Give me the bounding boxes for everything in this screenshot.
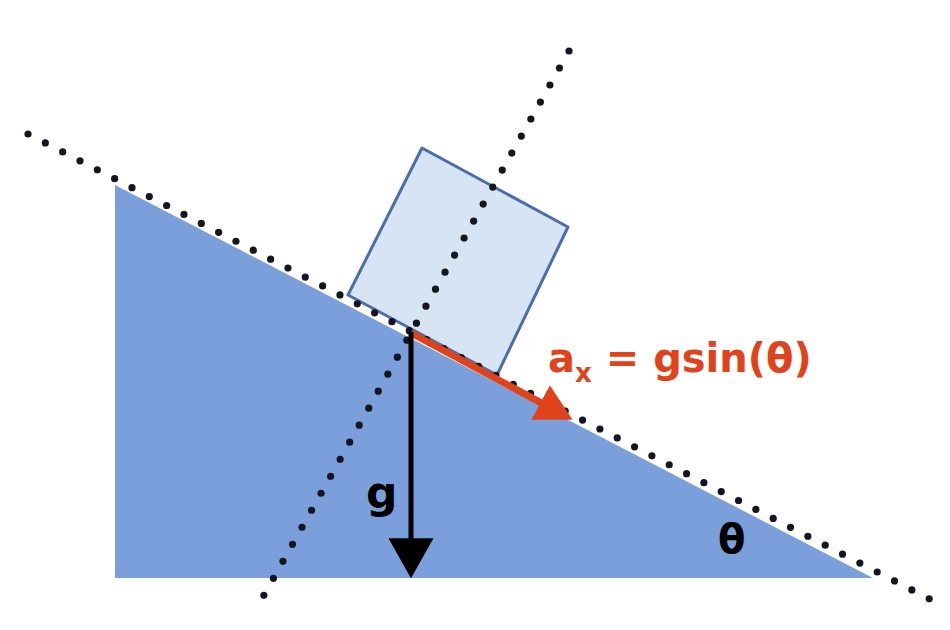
dotted-line-dot <box>470 218 477 225</box>
dotted-line-dot <box>284 264 291 271</box>
dotted-line-dot <box>508 149 515 156</box>
dotted-line-dot <box>394 354 401 361</box>
dotted-line-dot <box>319 282 326 289</box>
dotted-line-dot <box>700 479 707 486</box>
dotted-line-dot <box>683 470 690 477</box>
acceleration-label-expression: = gsin(θ) <box>592 335 812 381</box>
dotted-line-dot <box>518 132 525 139</box>
dotted-line-dot <box>180 211 187 218</box>
dotted-line-dot <box>289 541 296 548</box>
dotted-line-dot <box>489 183 496 190</box>
dotted-line-dot <box>298 524 305 531</box>
dotted-line-dot <box>926 595 933 602</box>
dotted-line-dot <box>666 461 673 468</box>
dotted-line-dot <box>336 291 343 298</box>
physics-diagram-canvas: ax = gsin(θ) g θ <box>0 0 950 630</box>
dotted-line-dot <box>874 568 881 575</box>
dotted-line-dot <box>215 229 222 236</box>
dotted-line-dot <box>631 443 638 450</box>
dotted-line-dot <box>441 269 448 276</box>
acceleration-label-subscript: x <box>575 358 592 388</box>
dotted-line-dot <box>327 473 334 480</box>
dotted-line-dot <box>422 303 429 310</box>
dotted-line-dot <box>317 490 324 497</box>
dotted-line-dot <box>260 592 267 599</box>
dotted-line-dot <box>527 115 534 122</box>
dotted-line-dot <box>94 166 101 173</box>
dotted-line-dot <box>250 247 257 254</box>
dotted-line-dot <box>163 202 170 209</box>
dotted-line-dot <box>648 452 655 459</box>
dotted-line-dot <box>24 130 31 137</box>
dotted-line-dot <box>232 238 239 245</box>
dotted-line-dot <box>579 416 586 423</box>
dotted-line-dot <box>198 220 205 227</box>
dotted-line-dot <box>128 184 135 191</box>
dotted-line-dot <box>432 286 439 293</box>
dotted-line-dot <box>337 456 344 463</box>
acceleration-label-base: a <box>548 335 575 381</box>
dotted-line-dot <box>908 586 915 593</box>
dotted-line-dot <box>267 256 274 263</box>
dotted-line-dot <box>384 371 391 378</box>
dotted-line-dot <box>804 533 811 540</box>
dotted-line-dot <box>596 425 603 432</box>
dotted-line-dot <box>279 558 286 565</box>
dotted-line-dot <box>556 64 563 71</box>
dotted-line-dot <box>302 273 309 280</box>
dotted-line-dot <box>76 157 83 164</box>
dotted-line-dot <box>365 405 372 412</box>
dotted-line-dot <box>822 542 829 549</box>
dotted-line-dot <box>346 439 353 446</box>
acceleration-formula-label: ax = gsin(θ) <box>548 335 812 388</box>
dotted-line-dot <box>787 524 794 531</box>
dotted-line-dot <box>770 515 777 522</box>
dotted-line-dot <box>146 193 153 200</box>
dotted-line-dot <box>371 309 378 316</box>
dotted-line-dot <box>735 497 742 504</box>
incline-angle-label: θ <box>718 516 745 562</box>
dotted-line-dot <box>388 318 395 325</box>
dotted-line-dot <box>270 575 277 582</box>
dotted-line-dot <box>375 388 382 395</box>
dotted-line-dot <box>565 47 572 54</box>
inclined-plane-diagram: ax = gsin(θ) g θ <box>0 0 950 630</box>
dotted-line-dot <box>413 320 420 327</box>
dotted-line-dot <box>562 408 569 415</box>
dotted-line-dot <box>354 300 361 307</box>
dotted-line-dot <box>308 507 315 514</box>
dotted-line-dot <box>499 166 506 173</box>
dotted-line-dot <box>59 148 66 155</box>
dotted-line-dot <box>839 551 846 558</box>
dotted-line-dot <box>537 98 544 105</box>
dotted-line-dot <box>614 434 621 441</box>
dotted-line-dot <box>856 559 863 566</box>
dotted-line-dot <box>891 577 898 584</box>
dotted-line-dot <box>752 506 759 513</box>
gravity-label: g <box>366 467 398 518</box>
dotted-line-dot <box>480 200 487 207</box>
dotted-line-dot <box>451 252 458 259</box>
dotted-line-dot <box>356 422 363 429</box>
dotted-line-dot <box>42 139 49 146</box>
dotted-line-dot <box>718 488 725 495</box>
dotted-line-dot <box>461 235 468 242</box>
dotted-line-dot <box>111 175 118 182</box>
dotted-line-dot <box>546 81 553 88</box>
